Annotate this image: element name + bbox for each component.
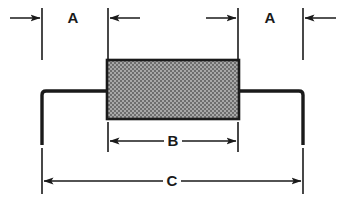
right-lead	[234, 91, 303, 145]
component-outline-drawing: A A B C	[0, 0, 343, 206]
component-body-fill	[107, 60, 239, 119]
dimension-label-b: B	[168, 132, 179, 149]
dimension-drawing-canvas: A A B C	[0, 0, 343, 206]
dimension-label-a-right: A	[265, 9, 276, 26]
dimension-label-a-left: A	[68, 9, 79, 26]
dimension-label-c: C	[167, 172, 178, 189]
left-lead	[42, 91, 112, 145]
component-body	[107, 60, 239, 119]
